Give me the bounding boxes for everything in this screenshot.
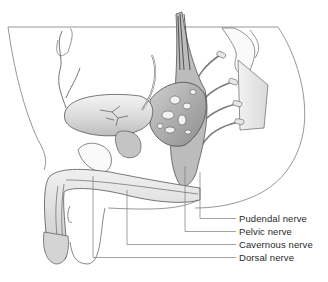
label-pudendal-nerve: Pudendal nerve	[239, 213, 307, 224]
seminal-vesicle	[115, 131, 141, 158]
sacrum	[222, 28, 268, 130]
leader-line-pudendal	[200, 172, 236, 219]
label-cavernous-nerve: Cavernous nerve	[239, 239, 313, 250]
penis	[44, 169, 201, 264]
scrotum	[68, 206, 105, 264]
bladder	[64, 94, 152, 135]
label-dorsal-nerve: Dorsal nerve	[239, 252, 294, 263]
label-pelvic-nerve: Pelvic nerve	[239, 226, 292, 237]
pubic-bone	[78, 143, 111, 172]
